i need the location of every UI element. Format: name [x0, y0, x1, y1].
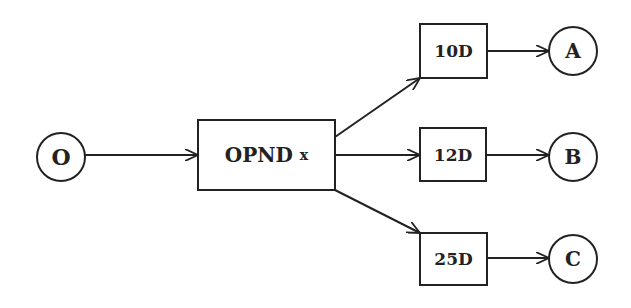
opnd-box-label: OPND x — [198, 120, 335, 190]
opnd-suffix: x — [300, 147, 308, 163]
end-node-c-label: C — [549, 235, 597, 283]
end-node-b-label: B — [549, 133, 597, 181]
start-node-label: O — [37, 133, 85, 181]
box-25d-label: 25D — [420, 233, 487, 285]
arrow-opnd-to-25d — [335, 190, 420, 233]
box-10d-label: 10D — [420, 24, 487, 78]
end-node-a-label: A — [549, 27, 597, 75]
box-12d-label: 12D — [420, 128, 486, 181]
arrow-opnd-to-10d — [335, 78, 420, 137]
opnd-label: OPND — [225, 143, 293, 167]
